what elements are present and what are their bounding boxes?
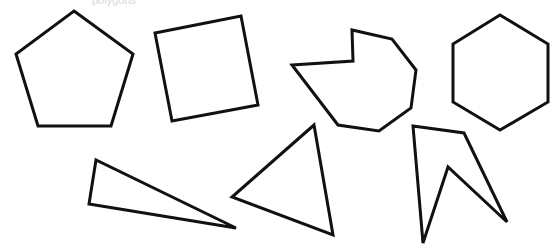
polygons-diagram <box>0 0 554 248</box>
thin-triangle <box>89 160 236 228</box>
irregular-octagon <box>292 30 416 131</box>
concave-quadrilateral <box>413 126 507 243</box>
triangle <box>232 125 333 235</box>
hexagon <box>453 15 548 130</box>
square <box>155 16 258 121</box>
pentagon <box>16 11 133 126</box>
